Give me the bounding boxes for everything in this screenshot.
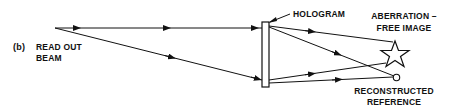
readout-beam-label-line1: READ OUT bbox=[36, 42, 82, 53]
readout-beam-label-line2: BEAM bbox=[36, 53, 62, 64]
reference-label-line2: REFERENCE bbox=[344, 97, 444, 108]
readout-ray-top bbox=[55, 25, 262, 31]
reference-point-icon bbox=[393, 74, 399, 80]
readout-ray-bottom bbox=[55, 28, 262, 80]
reference-ray-bottom bbox=[269, 77, 393, 83]
image-label-line1: ABERRATION – bbox=[366, 11, 442, 22]
panel-label: (b) bbox=[13, 42, 25, 53]
hologram-plate bbox=[262, 22, 269, 87]
image-label-line2: FREE IMAGE bbox=[366, 23, 442, 34]
reference-label-line1: RECONSTRUCTED bbox=[344, 86, 444, 97]
hologram-label: HOLOGRAM bbox=[293, 9, 345, 20]
